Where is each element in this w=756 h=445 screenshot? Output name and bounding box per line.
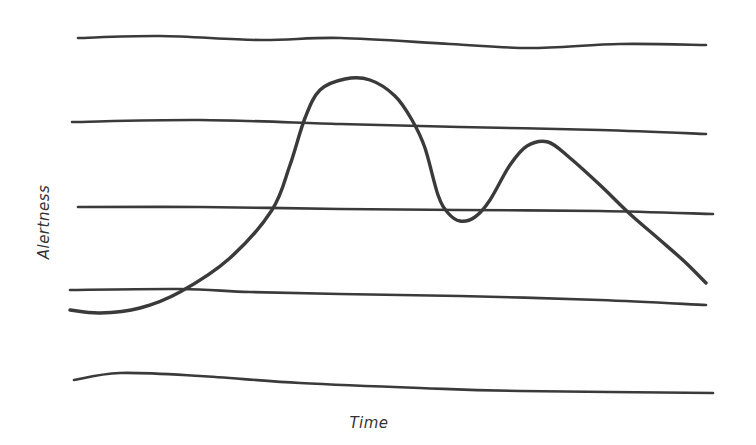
gridline-1 (78, 36, 706, 48)
x-axis-label: Time (349, 414, 388, 432)
gridlines (70, 36, 713, 393)
series-line-alertness (70, 78, 706, 313)
alertness-chart (0, 0, 756, 445)
gridline-2 (72, 120, 706, 134)
gridline-4 (70, 289, 706, 305)
y-axis-label: Alertness (35, 185, 53, 260)
gridline-5 (74, 373, 713, 393)
alertness-curve (70, 78, 706, 313)
gridline-3 (78, 207, 713, 214)
